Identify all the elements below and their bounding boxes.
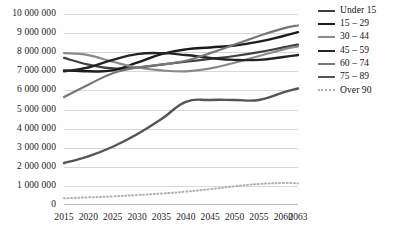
legend-item-label: Under 15 bbox=[340, 6, 376, 16]
legend-item-label: 60 – 74 bbox=[340, 59, 369, 69]
legend-line-icon bbox=[318, 63, 335, 65]
y-axis-tick-label: 0 bbox=[51, 200, 56, 210]
legend-line-icon bbox=[318, 89, 335, 91]
y-axis-tick-label: 2 000 000 bbox=[17, 162, 56, 172]
x-axis-tick-label: 2050 bbox=[225, 213, 244, 223]
legend-line-icon bbox=[318, 50, 335, 52]
x-axis-tick-label: 2035 bbox=[152, 213, 171, 223]
legend-item[interactable]: Under 15 bbox=[318, 4, 398, 17]
y-axis-tick-label: 9 000 000 bbox=[17, 28, 56, 38]
x-axis-tick-label: 2020 bbox=[79, 213, 98, 223]
legend-line-icon bbox=[318, 36, 335, 38]
legend-line-icon bbox=[318, 76, 335, 78]
legend-item[interactable]: 15 – 29 bbox=[318, 17, 398, 30]
series-line bbox=[64, 25, 298, 97]
plot-area bbox=[64, 14, 298, 205]
series-lines bbox=[64, 14, 298, 205]
legend-item[interactable]: 75 – 89 bbox=[318, 70, 398, 83]
y-axis-tick-label: 4 000 000 bbox=[17, 124, 56, 134]
legend-item-label: 15 – 29 bbox=[340, 19, 369, 29]
y-axis-tick-label: 5 000 000 bbox=[17, 105, 56, 115]
y-axis-tick-label: 6 000 000 bbox=[17, 86, 56, 96]
series-line bbox=[64, 183, 298, 198]
legend-item[interactable]: 60 – 74 bbox=[318, 57, 398, 70]
y-axis-tick-label: 8 000 000 bbox=[17, 47, 56, 57]
legend-item-label: Over 90 bbox=[340, 86, 372, 96]
x-axis-tick-label: 2015 bbox=[54, 213, 73, 223]
series-line bbox=[64, 88, 298, 162]
legend-item[interactable]: Over 90 bbox=[318, 84, 398, 97]
legend-line-icon bbox=[318, 23, 335, 25]
y-axis-tick-label: 1 000 000 bbox=[17, 181, 56, 191]
legend-item-label: 30 – 44 bbox=[340, 32, 369, 42]
y-axis: 01 000 0002 000 0003 000 0004 000 0005 0… bbox=[0, 0, 62, 238]
legend: Under 1515 – 2930 – 4445 – 5960 – 7475 –… bbox=[318, 4, 398, 97]
legend-item-label: 45 – 59 bbox=[340, 46, 369, 56]
legend-item[interactable]: 30 – 44 bbox=[318, 31, 398, 44]
x-axis-tick-label: 2040 bbox=[176, 213, 195, 223]
x-axis-tick-label: 2025 bbox=[103, 213, 122, 223]
y-axis-tick-label: 3 000 000 bbox=[17, 143, 56, 153]
legend-line-icon bbox=[318, 10, 335, 12]
legend-item[interactable]: 45 – 59 bbox=[318, 44, 398, 57]
x-axis-tick-label: 2055 bbox=[249, 213, 268, 223]
x-axis-tick-label: 2045 bbox=[201, 213, 220, 223]
x-axis: 2015202020252030203520402045205020552060… bbox=[64, 207, 298, 229]
population-projection-chart: 01 000 0002 000 0003 000 0004 000 0005 0… bbox=[0, 0, 398, 238]
legend-item-label: 75 – 89 bbox=[340, 72, 369, 82]
y-axis-tick-label: 7 000 000 bbox=[17, 67, 56, 77]
y-axis-tick-label: 10 000 000 bbox=[12, 9, 56, 19]
x-axis-tick-label: 2030 bbox=[127, 213, 146, 223]
x-axis-tick-label: 2063 bbox=[288, 213, 307, 223]
